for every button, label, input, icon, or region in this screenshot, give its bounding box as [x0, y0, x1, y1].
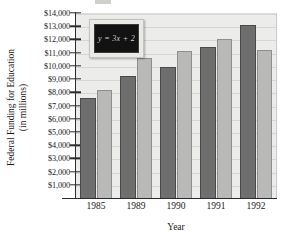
bar: [177, 51, 193, 198]
bar: [257, 50, 273, 198]
y-axis-title-line1: Federal Funding for Education: [6, 49, 18, 166]
y-axis-tick-label: $1,000: [48, 180, 70, 189]
bar: [120, 76, 136, 198]
top-edge-artifact: [95, 0, 111, 4]
y-axis-tick-label: $7,000: [48, 101, 70, 110]
y-axis-tick-labels: $1,000$2,000$3,000$4,000$5,000$6,000$7,0…: [32, 12, 74, 198]
y-axis-tick-label: $12,000: [44, 35, 70, 44]
y-axis-tick-label: $11,000: [44, 48, 70, 57]
x-axis-tick-label: 1991: [207, 201, 226, 211]
x-axis-title: Year: [76, 222, 276, 232]
y-axis-title-line2: (in millions): [17, 49, 29, 166]
y-axis-tick-label: $2,000: [48, 167, 70, 176]
chalkboard-annotation: y = 3x + 2: [89, 19, 144, 58]
x-axis-tick-label: 1990: [167, 201, 186, 211]
y-axis-tick-label: $8,000: [48, 88, 70, 97]
x-axis-tick-labels: 19851989199019911992: [76, 201, 276, 217]
y-axis-tick-label: $9,000: [48, 75, 70, 84]
y-axis-tick-label: $5,000: [48, 127, 70, 136]
x-axis-tick-label: 1985: [87, 201, 106, 211]
bar: [160, 67, 176, 198]
y-axis-tick-label: $3,000: [48, 154, 70, 163]
y-axis-tick-label: $13,000: [44, 22, 70, 31]
y-axis-tick-label: $14,000: [44, 9, 70, 18]
bar: [97, 90, 113, 198]
bar-chart-figure: Federal Funding for Education (in millio…: [0, 0, 285, 244]
y-axis-tick-label: $6,000: [48, 114, 70, 123]
y-axis-tick-label: $10,000: [44, 61, 70, 70]
y-axis-title: Federal Funding for Education (in millio…: [0, 0, 34, 215]
x-axis-line: [62, 198, 277, 199]
y-axis-tick-label: $4,000: [48, 141, 70, 150]
x-axis-tick-label: 1992: [247, 201, 266, 211]
x-axis-tick-label: 1989: [127, 201, 146, 211]
bar: [217, 39, 233, 198]
bar: [80, 98, 96, 198]
bar: [240, 25, 256, 198]
chalkboard-surface: y = 3x + 2: [94, 24, 139, 53]
bar: [137, 58, 153, 198]
chalkboard-equation-text: y = 3x + 2: [98, 34, 135, 43]
bar: [200, 47, 216, 198]
